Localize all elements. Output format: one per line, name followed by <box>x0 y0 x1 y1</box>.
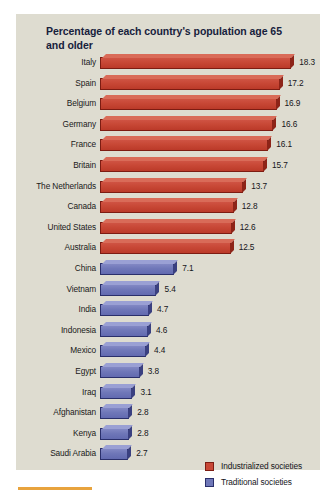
bar-value-label: 4.7 <box>157 304 168 314</box>
chart-bar-row: The Netherlands13.7 <box>16 179 320 196</box>
bar-red <box>100 139 268 151</box>
bar-value-label: 17.2 <box>288 78 304 88</box>
bar-red <box>100 160 264 172</box>
bar-value-label: 4.4 <box>154 345 165 355</box>
bottom-rule <box>18 487 92 490</box>
legend-item: Industrialized societies <box>205 461 333 475</box>
bar-value-label: 7.1 <box>182 263 193 273</box>
bar-blue <box>100 325 148 337</box>
chart-bar-row: China7.1 <box>16 261 320 278</box>
chart-bar-row: Indonesia4.6 <box>16 323 320 340</box>
bar-blue <box>100 366 140 378</box>
bar-category-label: Spain <box>16 78 96 88</box>
chart-bar-row: Mexico4.4 <box>16 343 320 360</box>
chart-bar-row: Germany16.6 <box>16 117 320 134</box>
bar-category-label: Egypt <box>16 366 96 376</box>
bar-red <box>100 181 243 193</box>
bar-category-label: United States <box>16 222 96 232</box>
bar-value-label: 18.3 <box>299 57 315 67</box>
legend-label: Industrialized societies <box>221 461 302 471</box>
chart-panel: Percentage of each country's population … <box>16 14 320 470</box>
chart-bar-row: Egypt3.8 <box>16 364 320 381</box>
chart-legend: Industrialized societiesTraditional soci… <box>205 461 333 493</box>
bar-value-label: 5.4 <box>164 284 175 294</box>
bar-red <box>100 119 273 131</box>
bar-value-label: 3.8 <box>148 366 159 376</box>
bar-value-label: 16.6 <box>281 119 297 129</box>
chart-bar-row: Afghanistan2.8 <box>16 405 320 422</box>
legend-label: Traditional societies <box>221 477 292 487</box>
bar-blue <box>100 407 129 419</box>
chart-bar-row: Vietnam5.4 <box>16 282 320 299</box>
bar-value-label: 2.8 <box>137 407 148 417</box>
bar-category-label: France <box>16 139 96 149</box>
chart-bar-row: Kenya2.8 <box>16 426 320 443</box>
chart-bar-row: Belgium16.9 <box>16 96 320 113</box>
bar-category-label: Kenya <box>16 428 96 438</box>
bar-red <box>100 201 234 213</box>
bar-value-label: 4.6 <box>156 325 167 335</box>
bar-value-label: 2.8 <box>137 428 148 438</box>
bar-category-label: The Netherlands <box>16 181 96 191</box>
bar-category-label: Belgium <box>16 98 96 108</box>
chart-bar-row: Italy18.3 <box>16 55 320 72</box>
bar-blue <box>100 345 146 357</box>
bar-value-label: 15.7 <box>272 160 288 170</box>
bar-red <box>100 57 291 69</box>
bar-red <box>100 78 280 90</box>
bar-value-label: 12.6 <box>240 222 256 232</box>
bar-value-label: 2.7 <box>136 448 147 458</box>
chart-bar-row: India4.7 <box>16 302 320 319</box>
bar-value-label: 16.1 <box>276 139 292 149</box>
bar-category-label: Iraq <box>16 387 96 397</box>
bar-category-label: Australia <box>16 242 96 252</box>
chart-bar-row: France16.1 <box>16 137 320 154</box>
bar-red <box>100 98 277 110</box>
bar-category-label: Saudi Arabia <box>16 448 96 458</box>
bar-value-label: 16.9 <box>285 98 301 108</box>
bar-blue <box>100 284 156 296</box>
chart-figure: Percentage of each country's population … <box>0 0 333 495</box>
legend-swatch-blue <box>205 478 214 487</box>
chart-bar-row: Canada12.8 <box>16 199 320 216</box>
bar-value-label: 12.5 <box>239 242 255 252</box>
bar-rows: Italy18.3Spain17.2Belgium16.9Germany16.6… <box>16 14 320 470</box>
chart-bar-row: Iraq3.1 <box>16 385 320 402</box>
bar-category-label: China <box>16 263 96 273</box>
bar-category-label: Vietnam <box>16 284 96 294</box>
bar-red <box>100 242 231 254</box>
bar-red <box>100 222 232 234</box>
bar-category-label: India <box>16 304 96 314</box>
bar-category-label: Italy <box>16 57 96 67</box>
bar-value-label: 12.8 <box>242 201 258 211</box>
bar-category-label: Britain <box>16 160 96 170</box>
bar-value-label: 3.1 <box>140 387 151 397</box>
chart-bar-row: Britain15.7 <box>16 158 320 175</box>
chart-bar-row: Australia12.5 <box>16 240 320 257</box>
legend-swatch-red <box>205 462 214 471</box>
bar-blue <box>100 304 149 316</box>
bar-blue <box>100 448 128 460</box>
bar-category-label: Afghanistan <box>16 407 96 417</box>
bar-blue <box>100 428 129 440</box>
chart-bar-row: Spain17.2 <box>16 76 320 93</box>
bar-value-label: 13.7 <box>251 181 267 191</box>
bar-category-label: Mexico <box>16 345 96 355</box>
chart-bar-row: United States12.6 <box>16 220 320 237</box>
bar-blue <box>100 263 174 275</box>
bar-category-label: Germany <box>16 119 96 129</box>
legend-item: Traditional societies <box>205 477 333 491</box>
bar-category-label: Canada <box>16 201 96 211</box>
bar-category-label: Indonesia <box>16 325 96 335</box>
bar-blue <box>100 387 132 399</box>
